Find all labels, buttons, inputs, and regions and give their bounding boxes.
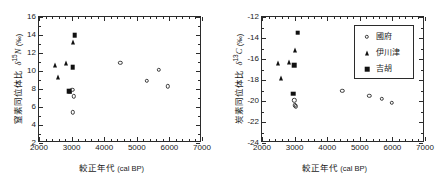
plot-area-nitrogen: 246810121416200030004000500060007000 xyxy=(39,17,200,141)
x-minor-tick xyxy=(163,17,164,19)
x-tick-5000 xyxy=(360,17,361,21)
x-minor-tick xyxy=(373,17,374,19)
panel-carbon: -24-22-20-18-16-14-122000300040005000600… xyxy=(223,0,446,195)
data-point-吉胡 xyxy=(67,89,72,94)
y-minor-tick xyxy=(39,116,41,117)
x-tick-label-5000: 5000 xyxy=(128,144,146,152)
y-axis-title-carbon: 炭素同位体比 δ13C (‰) xyxy=(233,16,243,142)
y-axis-unit: (‰) xyxy=(14,34,23,47)
x-tick-label-5000: 5000 xyxy=(351,144,369,152)
y-minor-tick xyxy=(198,44,200,45)
y-tick--20 xyxy=(419,101,423,102)
y-axis-symbol: δ xyxy=(234,62,244,66)
x-minor-tick xyxy=(111,17,112,19)
y-tick-8 xyxy=(196,89,200,90)
y-tick-label-4: 4 xyxy=(32,121,36,129)
y-tick-label-14: 14 xyxy=(27,31,36,39)
y-minor-tick xyxy=(198,62,200,63)
x-axis-title-carbon: 較正年代 (cal BP) xyxy=(223,164,446,173)
x-tick-label-3000: 3000 xyxy=(286,144,304,152)
x-minor-tick xyxy=(156,17,157,19)
y-minor-tick xyxy=(198,116,200,117)
x-minor-tick xyxy=(65,139,66,141)
x-minor-tick xyxy=(418,139,419,141)
x-tick-7000 xyxy=(202,17,203,21)
data-point-國府 xyxy=(379,97,383,101)
y-minor-tick xyxy=(198,80,200,81)
y-minor-tick xyxy=(198,98,200,99)
data-point-吉胡 xyxy=(73,33,78,38)
x-minor-tick xyxy=(340,139,341,141)
data-point-吉胡 xyxy=(296,30,301,35)
y-minor-tick xyxy=(262,133,264,134)
y-axis-symbol: δ xyxy=(13,62,23,66)
x-tick-5000 xyxy=(360,137,361,141)
y-tick--14 xyxy=(262,38,266,39)
x-tick-6000 xyxy=(169,137,170,141)
x-axis-unit: (cal BP) xyxy=(340,164,367,173)
legend-marker-open-circle-icon xyxy=(362,32,372,42)
x-minor-tick xyxy=(288,139,289,141)
x-minor-tick xyxy=(150,139,151,141)
x-minor-tick xyxy=(412,139,413,141)
y-minor-tick xyxy=(262,49,264,50)
x-minor-tick xyxy=(353,17,354,19)
x-minor-tick xyxy=(347,139,348,141)
x-minor-tick xyxy=(314,17,315,19)
y-axis-superscript: 13 xyxy=(232,54,239,61)
legend-item-伊川津: 伊川津 xyxy=(362,48,400,58)
x-minor-tick xyxy=(282,17,283,19)
x-tick-label-2000: 2000 xyxy=(253,144,271,152)
y-tick-8 xyxy=(39,89,43,90)
x-minor-tick xyxy=(301,139,302,141)
data-point-國府 xyxy=(70,110,74,114)
y-minor-tick xyxy=(39,62,41,63)
x-minor-tick xyxy=(269,139,270,141)
y-axis-name: 炭素同位体比 xyxy=(234,70,244,124)
y-tick--22 xyxy=(262,122,266,123)
y-tick-10 xyxy=(196,71,200,72)
x-minor-tick xyxy=(52,17,53,19)
x-tick-4000 xyxy=(104,137,105,141)
x-tick-label-7000: 7000 xyxy=(416,144,434,152)
x-minor-tick xyxy=(399,139,400,141)
x-minor-tick xyxy=(269,17,270,19)
y-minor-tick xyxy=(421,70,423,71)
legend: 國府伊川津吉胡 xyxy=(354,25,414,79)
x-minor-tick xyxy=(308,17,309,19)
x-tick-7000 xyxy=(425,17,426,21)
y-minor-tick xyxy=(262,112,264,113)
y-tick-label--16: -16 xyxy=(247,55,259,63)
data-point-國府 xyxy=(340,89,344,93)
data-point-國府 xyxy=(390,101,394,105)
x-minor-tick xyxy=(130,17,131,19)
x-minor-tick xyxy=(366,139,367,141)
y-minor-tick xyxy=(421,49,423,50)
x-tick-label-4000: 4000 xyxy=(95,144,113,152)
x-minor-tick xyxy=(314,139,315,141)
x-minor-tick xyxy=(78,139,79,141)
x-tick-5000 xyxy=(137,17,138,21)
data-point-國府 xyxy=(118,61,122,65)
plot-frame-carbon: -24-22-20-18-16-14-122000300040005000600… xyxy=(261,16,424,142)
x-tick-5000 xyxy=(137,137,138,141)
x-minor-tick xyxy=(59,139,60,141)
y-tick-4 xyxy=(196,125,200,126)
y-tick-16 xyxy=(196,17,200,18)
y-tick-label-10: 10 xyxy=(27,67,36,75)
y-tick-label-16: 16 xyxy=(27,13,36,21)
plot-frame-nitrogen: 246810121416200030004000500060007000 xyxy=(38,16,201,142)
x-minor-tick xyxy=(288,17,289,19)
x-minor-tick xyxy=(189,17,190,19)
x-minor-tick xyxy=(321,17,322,19)
y-minor-tick xyxy=(421,133,423,134)
y-tick-14 xyxy=(39,35,43,36)
x-minor-tick xyxy=(182,17,183,19)
x-tick-label-4000: 4000 xyxy=(318,144,336,152)
x-tick-label-6000: 6000 xyxy=(160,144,178,152)
x-tick-3000 xyxy=(72,17,73,21)
y-tick--18 xyxy=(262,80,266,81)
figure-root: 246810121416200030004000500060007000 窒素同… xyxy=(0,0,446,195)
x-minor-tick xyxy=(418,17,419,19)
x-tick-2000 xyxy=(39,137,40,141)
